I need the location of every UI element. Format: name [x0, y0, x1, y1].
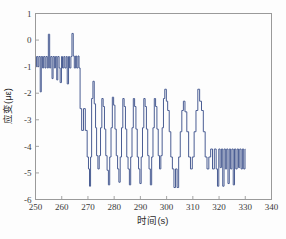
chart-canvas: 250260270280290300310320330340 10-1-2-3-…: [0, 0, 286, 239]
x-tick-label: 280: [107, 202, 121, 212]
x-tick-label: 320: [212, 202, 226, 212]
data-series-strain: [36, 33, 246, 187]
x-tick-label: 300: [160, 202, 174, 212]
y-tick-label: -2: [24, 88, 32, 98]
y-tick-label: -6: [24, 195, 32, 205]
x-tick-label: 290: [134, 202, 148, 212]
y-axis-label: 应变(με): [2, 88, 13, 124]
x-tick-label: 330: [239, 202, 253, 212]
y-tick-labels-group: 10-1-2-3-4-5-6: [24, 9, 32, 205]
x-tick-labels-group: 250260270280290300310320330340: [29, 202, 279, 212]
x-tick-label: 260: [55, 202, 69, 212]
y-tick-label: -4: [24, 142, 32, 152]
figure-container: 250260270280290300310320330340 10-1-2-3-…: [0, 0, 286, 239]
x-axis-label: 时间(s): [137, 215, 168, 226]
x-tick-label: 310: [186, 202, 200, 212]
plot-frame: [36, 14, 272, 200]
x-tick-label: 340: [265, 202, 279, 212]
y-tick-label: -3: [24, 115, 32, 125]
x-tick-label: 270: [81, 202, 95, 212]
y-tick-label: -1: [24, 62, 32, 72]
y-tick-label: 0: [27, 35, 32, 45]
axis-ticks-group: [36, 14, 272, 200]
y-tick-label: 1: [27, 9, 32, 19]
y-tick-label: -5: [24, 168, 32, 178]
